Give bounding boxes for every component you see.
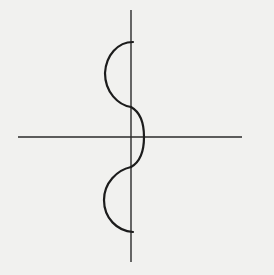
upper-left-arc [105,42,133,107]
lower-left-arc [104,167,133,232]
diagram-figure [0,0,274,275]
graph-svg [0,0,274,275]
